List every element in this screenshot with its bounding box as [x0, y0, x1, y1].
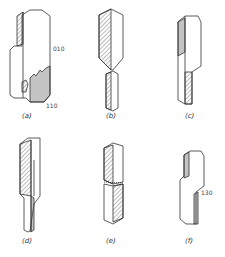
panel-b-specimen [99, 9, 123, 111]
annotation-010: 010 [53, 45, 64, 52]
figure-canvas [0, 0, 225, 257]
panel-e-specimen [104, 143, 123, 224]
panel-label-d: (d) [22, 237, 32, 245]
panel-c-specimen [178, 16, 201, 104]
panel-label-e: (e) [106, 237, 116, 245]
annotation-110: 110 [46, 102, 57, 109]
panel-a-specimen [10, 10, 50, 102]
panel-label-b: (b) [106, 112, 116, 120]
panel-d-specimen [20, 138, 40, 232]
panel-label-f: (f) [185, 237, 193, 245]
panel-label-c: (c) [185, 112, 194, 120]
panel-label-a: (a) [22, 112, 32, 120]
annotation-130: 130 [201, 189, 212, 196]
panel-f-specimen [180, 151, 204, 224]
